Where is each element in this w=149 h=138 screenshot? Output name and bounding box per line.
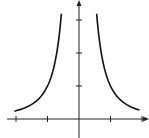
curve-left-branch bbox=[14, 14, 61, 111]
curve-right-branch bbox=[97, 14, 140, 110]
x-axis-arrow-icon bbox=[143, 117, 149, 122]
y-axis-arrow-icon bbox=[77, 0, 82, 6]
function-plot bbox=[0, 0, 149, 138]
